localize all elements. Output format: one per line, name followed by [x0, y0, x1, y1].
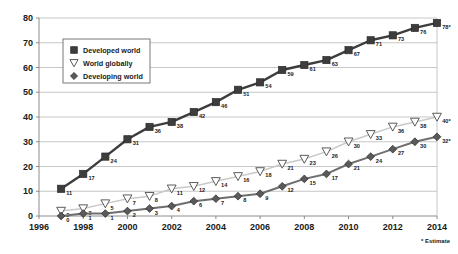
data-point-label: 17	[332, 175, 338, 181]
data-point-label: 24	[376, 158, 383, 164]
x-tick-label: 2008	[294, 222, 314, 232]
marker-square	[279, 66, 286, 73]
marker-square	[411, 24, 418, 31]
marker-square	[212, 99, 219, 106]
data-point-label: 30	[420, 143, 426, 149]
y-tick-label: 50	[23, 87, 33, 97]
data-point-label: 21	[287, 165, 293, 171]
line-chart: 01020304050607080 1996199820002002200420…	[0, 0, 458, 254]
data-point-label: 21	[354, 165, 360, 171]
marker-square	[234, 86, 241, 93]
y-tick-label: 80	[23, 13, 33, 23]
data-point-label: 12	[287, 187, 293, 193]
data-point-label: 42	[199, 113, 205, 119]
data-point-label: 12	[199, 187, 205, 193]
data-point-label: 5	[111, 205, 114, 211]
data-point-label: 78*	[442, 24, 451, 30]
marker-square	[146, 123, 153, 130]
marker-square	[433, 19, 440, 26]
data-point-label: 1	[111, 215, 114, 221]
y-tick-label: 0	[28, 211, 33, 221]
data-point-label: 27	[398, 150, 404, 156]
y-tick-label: 20	[23, 162, 33, 172]
marker-square	[323, 56, 330, 63]
data-point-label: 76	[420, 29, 426, 35]
data-point-label: 7	[133, 200, 136, 206]
data-point-label: 61	[310, 66, 316, 72]
legend-item-label: Developed world	[83, 46, 141, 55]
marker-square	[58, 185, 65, 192]
marker-square	[367, 37, 374, 44]
marker-square	[80, 170, 87, 177]
y-tick-label: 40	[23, 112, 33, 122]
x-tick-label: 2014	[427, 222, 447, 232]
y-tick-label: 10	[23, 186, 33, 196]
data-point-label: 30	[354, 143, 360, 149]
y-tick-label: 30	[23, 137, 33, 147]
marker-square	[389, 32, 396, 39]
marker-square	[71, 47, 78, 54]
data-point-label: 8	[243, 197, 246, 203]
marker-square	[301, 61, 308, 68]
y-axis-tick-labels: 01020304050607080	[23, 13, 33, 221]
y-tick-label: 60	[23, 63, 33, 73]
data-point-label: 0	[66, 217, 69, 223]
legend-item-label: World globally	[83, 59, 132, 68]
x-tick-label: 2002	[162, 222, 182, 232]
x-tick-label: 1996	[29, 222, 49, 232]
data-point-label: 40*	[442, 118, 451, 124]
data-point-label: 11	[177, 190, 183, 196]
marker-square	[257, 79, 264, 86]
data-point-label: 16	[243, 177, 249, 183]
data-point-label: 46	[221, 103, 227, 109]
data-point-label: 15	[310, 180, 316, 186]
data-point-label: 23	[310, 160, 316, 166]
marker-square	[102, 153, 109, 160]
data-point-label: 11	[66, 190, 72, 196]
data-point-label: 38	[420, 123, 426, 129]
data-point-label: 26	[332, 153, 338, 159]
data-point-label: 6	[199, 202, 202, 208]
data-point-label: 7	[221, 200, 224, 206]
data-point-label: 8	[155, 197, 158, 203]
data-point-label: 59	[287, 71, 293, 77]
data-point-label: 2	[133, 212, 136, 218]
legend-item-label: Developing world	[83, 72, 143, 81]
data-point-label: 24	[111, 158, 118, 164]
x-tick-label: 2010	[339, 222, 359, 232]
data-point-label: 38	[177, 123, 183, 129]
marker-square	[190, 108, 197, 115]
estimate-footnote: * Estimate	[421, 238, 451, 244]
data-point-label: 36	[155, 128, 161, 134]
data-point-label: 36	[398, 128, 404, 134]
chart-container: 01020304050607080 1996199820002002200420…	[0, 0, 458, 254]
data-point-label: 18	[265, 172, 271, 178]
data-point-label: 14	[221, 182, 228, 188]
data-point-label: 33	[376, 135, 382, 141]
chart-legend: Developed worldWorld globallyDeveloping …	[63, 39, 150, 83]
data-point-label: 1	[88, 215, 91, 221]
data-point-label: 54	[265, 83, 272, 89]
data-point-label: 32*	[442, 138, 451, 144]
data-point-label: 71	[376, 41, 382, 47]
x-tick-label: 2000	[117, 222, 137, 232]
data-point-label: 3	[155, 210, 158, 216]
y-tick-label: 70	[23, 38, 33, 48]
data-point-label: 63	[332, 61, 338, 67]
x-tick-label: 2006	[250, 222, 270, 232]
data-point-label: 9	[265, 195, 268, 201]
x-tick-label: 1998	[73, 222, 93, 232]
marker-square	[168, 118, 175, 125]
x-tick-label: 2012	[383, 222, 403, 232]
data-point-label: 51	[243, 91, 249, 97]
data-point-label: 67	[354, 51, 360, 57]
marker-square	[124, 136, 131, 143]
x-tick-label: 2004	[206, 222, 226, 232]
data-point-label: 17	[88, 175, 94, 181]
marker-square	[345, 47, 352, 54]
data-point-label: 73	[398, 36, 404, 42]
data-point-label: 31	[133, 140, 139, 146]
